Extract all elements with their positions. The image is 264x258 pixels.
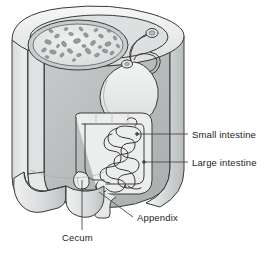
- anatomy-figure: Small intestine Large intestine Appendix…: [0, 0, 264, 258]
- label-small-intestine: Small intestine: [192, 129, 256, 140]
- pylorus-lumen: [125, 62, 130, 65]
- label-cecum: Cecum: [62, 232, 93, 243]
- small-intestine-leader-dot: [136, 133, 139, 136]
- front-cut-notch: [28, 50, 44, 174]
- cecum-pouch: [74, 172, 90, 189]
- esophagus-top-lumen: [149, 31, 155, 35]
- label-appendix: Appendix: [137, 212, 178, 223]
- large-intestine-leader-dot: [143, 161, 146, 164]
- thoracic-oval: [28, 20, 128, 70]
- label-large-intestine: Large intestine: [192, 157, 257, 168]
